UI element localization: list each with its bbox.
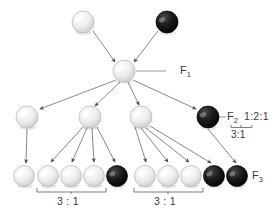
f3-bracket-right <box>134 188 203 194</box>
f3-offspring-4 <box>84 166 105 189</box>
f3-offspring-3 <box>61 166 82 189</box>
f3-bracket-left <box>37 188 106 194</box>
parent-black <box>156 11 178 35</box>
f3-offspring-10 <box>227 166 248 189</box>
f3-offspring-8 <box>181 166 202 189</box>
f3-offspring-5 <box>107 166 128 189</box>
f2-heterozygote-right <box>130 106 152 130</box>
f3-right-ratio-label: 3 : 1 <box>154 196 176 207</box>
f3-offspring-6 <box>135 166 156 189</box>
f3-offspring-9 <box>204 166 225 189</box>
f1-heterozygote <box>113 60 135 84</box>
parent-white <box>72 11 94 35</box>
f3-left-ratio-label: 3 : 1 <box>57 196 79 207</box>
f2-heterozygote-left <box>79 106 101 130</box>
organism-layer <box>14 11 248 188</box>
f2-sub-ratio-brace <box>231 125 252 128</box>
f3-offspring-2 <box>38 166 59 189</box>
f2-homozygote-white <box>16 106 38 130</box>
genetics-inheritance-figure: F1 F2 1:2:1 3:1 F3 3 : 1 3 : 1 <box>0 0 275 219</box>
selfing-arrows-f2-to-f3 <box>26 126 236 163</box>
cross-arrows-p-to-f1 <box>93 31 158 62</box>
f2-generation-label: F2 <box>227 111 238 125</box>
f2-homozygote-black <box>197 106 219 130</box>
f3-offspring-7 <box>158 166 179 189</box>
f3-offspring-1 <box>14 166 35 189</box>
f2-sub-ratio-label: 3:1 <box>231 130 246 140</box>
f2-ratio-label: 1:2:1 <box>244 111 269 122</box>
f1-generation-label: F1 <box>180 65 191 79</box>
f3-generation-label: F3 <box>252 170 263 184</box>
cross-arrows-f1-to-f2 <box>40 80 196 109</box>
